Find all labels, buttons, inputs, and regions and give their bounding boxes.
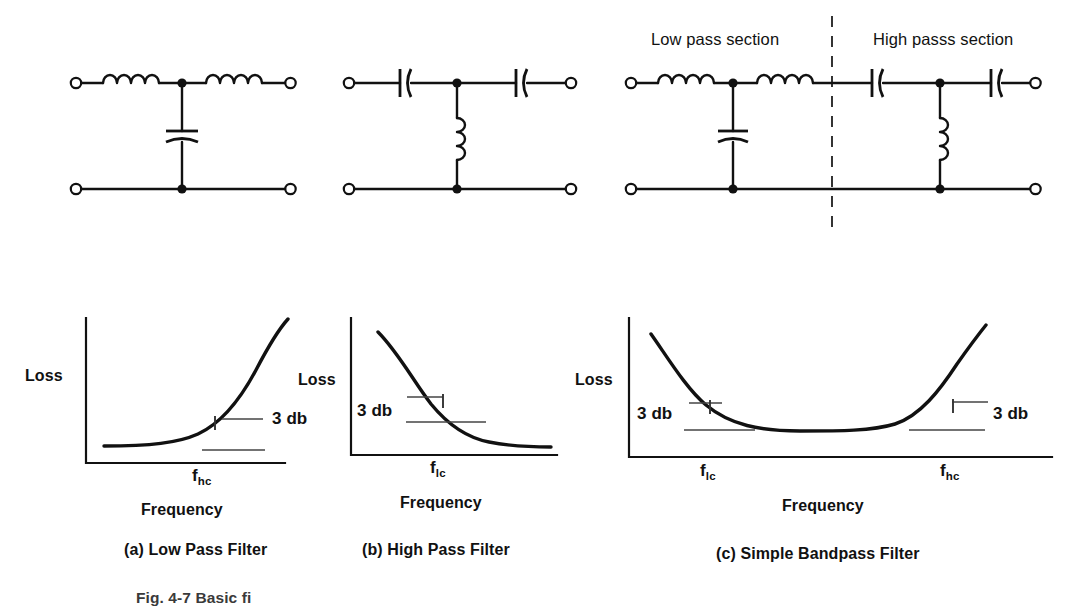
freq-tick-a-sub: hc [198, 475, 212, 487]
db-label-c-left: 3 db [637, 404, 672, 424]
freq-tick-b: flc [430, 458, 446, 479]
panel-caption-c: (c) Simple Bandpass Filter [716, 545, 920, 563]
x-axis-label-a: Frequency [141, 501, 223, 519]
freq-tick-c-low: flc [700, 461, 716, 482]
low-pass-response-graph [86, 318, 288, 463]
response-curve [104, 319, 288, 446]
db-label-c-right: 3 db [993, 404, 1028, 424]
freq-tick-b-sub: lc [436, 467, 446, 479]
graph-axes [629, 318, 1052, 457]
db-label-a: 3 db [272, 409, 307, 429]
freq-tick-c-low-sub: lc [706, 470, 716, 482]
high-pass-response-graph [351, 318, 557, 455]
y-axis-label-b: Loss [298, 371, 336, 389]
bandpass-response-graph [629, 318, 1052, 457]
freq-tick-c-high-sub: hc [946, 470, 960, 482]
freq-tick-a: fhc [192, 466, 212, 487]
x-axis-label-b: Frequency [400, 494, 482, 512]
response-curve [651, 325, 986, 431]
db-label-b: 3 db [357, 401, 392, 421]
freq-tick-c-high: fhc [940, 461, 960, 482]
panel-caption-b: (b) High Pass Filter [362, 541, 510, 559]
figure-caption: Fig. 4-7 Basic fi [136, 589, 251, 607]
x-axis-label-c: Frequency [782, 497, 864, 515]
y-axis-label-a: Loss [25, 367, 63, 385]
graph-axes [86, 318, 285, 463]
response-curve [378, 332, 551, 447]
y-axis-label-c: Loss [575, 371, 613, 389]
panel-caption-a: (a) Low Pass Filter [124, 541, 267, 559]
